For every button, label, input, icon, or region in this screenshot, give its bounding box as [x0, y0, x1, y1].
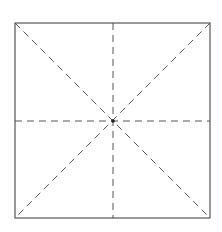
fold-diagram — [0, 0, 222, 232]
center-point — [111, 119, 115, 123]
